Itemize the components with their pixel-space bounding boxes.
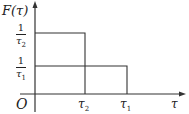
- x-axis-label: τ: [171, 98, 178, 110]
- y-axis-label: F(τ): [2, 4, 28, 17]
- step-tau2: [35, 33, 85, 94]
- x-tick-tau2: τ2: [78, 98, 89, 113]
- frac-denominator: τ1: [16, 68, 26, 82]
- plot-area: [0, 0, 189, 114]
- frac-numerator: 1: [16, 56, 26, 68]
- y-tick-inv-tau2: 1 τ2: [16, 23, 26, 49]
- x-tick-tau1: τ1: [120, 98, 131, 113]
- frac-denominator: τ2: [16, 35, 26, 49]
- y-axis-arrow-icon: [33, 1, 38, 8]
- origin-label: O: [16, 97, 27, 111]
- y-tick-inv-tau1: 1 τ1: [16, 56, 26, 82]
- step-tau1: [35, 66, 127, 94]
- frac-numerator: 1: [16, 23, 26, 35]
- x-axis-arrow-icon: [179, 92, 186, 97]
